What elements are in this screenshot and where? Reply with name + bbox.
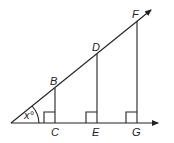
diagram-canvas: x° B C D E F G	[0, 0, 174, 143]
label-e: E	[92, 126, 100, 138]
label-g: G	[132, 126, 141, 138]
right-angle-g	[126, 112, 137, 123]
right-angle-e	[86, 112, 97, 123]
angle-label: x°	[23, 109, 35, 121]
label-b: B	[50, 75, 57, 87]
label-c: C	[51, 126, 59, 138]
label-f: F	[132, 8, 140, 20]
right-angle-c	[44, 112, 55, 123]
label-d: D	[92, 41, 100, 53]
